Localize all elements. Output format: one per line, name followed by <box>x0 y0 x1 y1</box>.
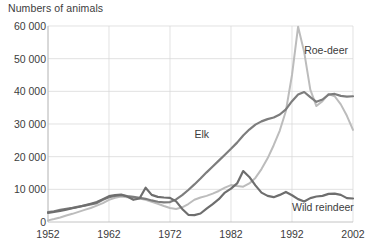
x-tick-2002: 2002 <box>341 228 364 240</box>
x-tick-1972: 1972 <box>158 228 181 240</box>
animal-population-line-chart: Numbers of animals 010 00020 00030 00040… <box>0 0 367 252</box>
x-tick-1962: 1962 <box>97 228 120 240</box>
x-tick-1992: 1992 <box>280 228 303 240</box>
x-tick-1982: 1982 <box>219 228 242 240</box>
series-line-roe-deer <box>48 27 353 221</box>
series-label-wild-reindeer: Wild reindeer <box>292 201 354 213</box>
series-label-elk: Elk <box>194 128 209 140</box>
series-label-roe-deer: Roe-deer <box>304 44 348 56</box>
data-series <box>48 27 353 221</box>
series-line-elk <box>48 92 353 212</box>
x-tick-1952: 1952 <box>36 228 59 240</box>
plot-canvas <box>0 0 367 252</box>
